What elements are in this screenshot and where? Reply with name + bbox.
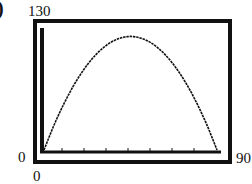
outer-frame bbox=[35, 21, 230, 162]
parabola-curve bbox=[44, 36, 217, 150]
graph-window bbox=[0, 0, 252, 184]
